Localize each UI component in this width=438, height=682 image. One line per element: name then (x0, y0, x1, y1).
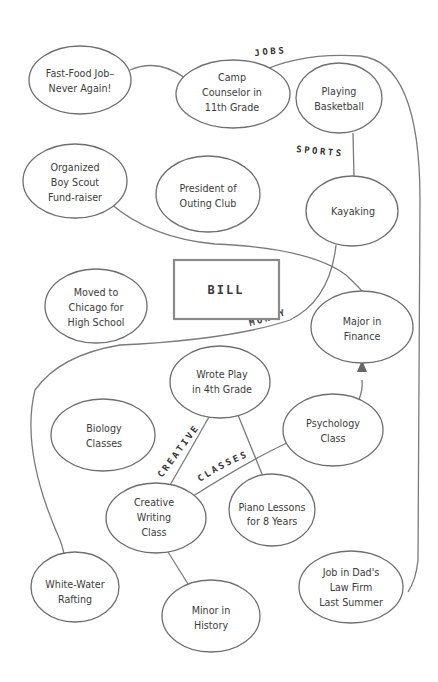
svg-text:Kayaking: Kayaking (331, 206, 375, 217)
svg-text:11th Grade: 11th Grade (205, 102, 259, 113)
svg-text:Camp: Camp (218, 72, 246, 83)
svg-text:Boy Scout: Boy Scout (51, 177, 99, 188)
svg-text:Chicago for: Chicago for (69, 302, 124, 313)
svg-text:Rafting: Rafting (58, 594, 92, 605)
node-chicago[interactable]: Moved to Chicago for High School (45, 269, 147, 343)
line-fastfood-camp (130, 66, 185, 79)
label-jobs: JOBS (254, 45, 287, 58)
line-play-piano (238, 415, 262, 474)
node-biology[interactable]: Biology Classes (51, 399, 155, 471)
svg-text:Job in Dad's: Job in Dad's (322, 567, 380, 578)
node-camp-counselor[interactable]: Camp Counselor in 11th Grade (176, 60, 290, 128)
svg-text:Major in: Major in (343, 316, 381, 327)
svg-text:Wrote Play: Wrote Play (196, 369, 248, 380)
label-sports: SPORTS (296, 144, 344, 158)
node-history[interactable]: Minor in History (162, 580, 260, 652)
svg-text:Never Again!: Never Again! (49, 83, 112, 94)
node-kayaking[interactable]: Kayaking (306, 176, 398, 246)
svg-text:History: History (194, 620, 228, 631)
svg-text:Counselor in: Counselor in (202, 87, 262, 98)
node-creative-writing[interactable]: Creative Writing Class (106, 483, 206, 553)
line-basketball-kayaking (353, 133, 354, 178)
node-outing-club[interactable]: President of Outing Club (156, 156, 260, 232)
svg-text:for 8 Years: for 8 Years (247, 516, 298, 527)
line-creative-history (168, 552, 188, 584)
svg-text:Classes: Classes (86, 438, 122, 449)
svg-text:High School: High School (68, 317, 125, 328)
node-wrote-play[interactable]: Wrote Play in 4th Grade (170, 346, 270, 418)
svg-text:Outing Club: Outing Club (180, 198, 237, 209)
node-boy-scout[interactable]: Organized Boy Scout Fund-raiser (23, 144, 127, 218)
node-fast-food[interactable]: Fast-Food Job– Never Again! (29, 46, 131, 114)
svg-text:Last Summer: Last Summer (319, 597, 383, 608)
svg-text:Finance: Finance (344, 331, 381, 342)
node-rafting[interactable]: White-Water Rafting (31, 552, 119, 622)
svg-text:Fast-Food Job–: Fast-Food Job– (46, 68, 115, 79)
svg-text:Moved to: Moved to (74, 287, 119, 298)
svg-text:Class: Class (141, 527, 166, 538)
svg-text:Law Firm: Law Firm (330, 582, 373, 593)
svg-text:White-Water: White-Water (45, 579, 104, 590)
svg-text:Piano Lessons: Piano Lessons (238, 502, 305, 513)
svg-text:Psychology: Psychology (306, 418, 360, 429)
svg-text:Playing: Playing (322, 86, 357, 97)
svg-text:Class: Class (320, 433, 345, 444)
node-psychology[interactable]: Psychology Class (283, 394, 383, 466)
svg-text:Creative: Creative (134, 497, 174, 508)
node-finance[interactable]: Major in Finance (311, 291, 413, 363)
svg-text:Minor in: Minor in (192, 605, 231, 616)
svg-text:President of: President of (179, 183, 237, 194)
node-piano[interactable]: Piano Lessons for 8 Years (229, 474, 315, 546)
svg-text:Fund-raiser: Fund-raiser (48, 192, 102, 203)
mind-map: JOBS SPORTS MONEY CREATIVE CLASSES BILL … (0, 0, 438, 682)
node-basketball[interactable]: Playing Basketball (296, 63, 382, 133)
svg-text:Writing: Writing (137, 512, 171, 523)
svg-text:Biology: Biology (86, 423, 122, 434)
center-label: BILL (208, 283, 245, 297)
center-node[interactable]: BILL (174, 260, 279, 319)
node-dads-firm[interactable]: Job in Dad's Law Firm Last Summer (299, 551, 403, 623)
svg-text:Organized: Organized (50, 162, 99, 173)
svg-text:in 4th Grade: in 4th Grade (192, 384, 252, 395)
svg-text:Basketball: Basketball (314, 101, 364, 112)
